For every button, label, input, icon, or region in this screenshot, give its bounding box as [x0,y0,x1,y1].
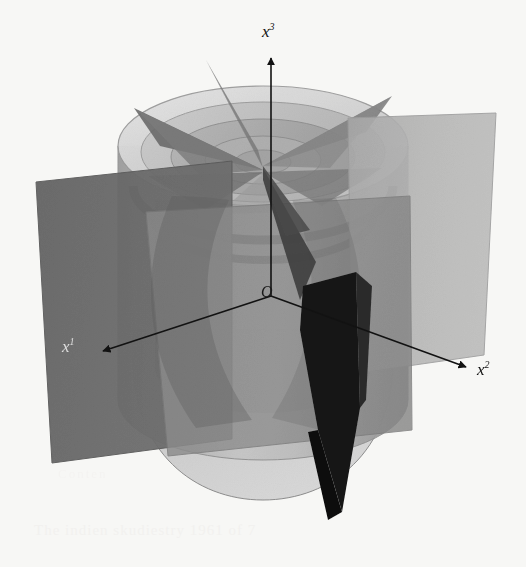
axis-label-x3: x3 [262,22,275,42]
scanner-bleed-upper: Conten [58,466,108,482]
axis-label-x2: x2 [477,360,490,380]
scanner-bleed-lower: The indien skudiestry 1961 of 7 [34,522,256,539]
figure-canvas: x3 x1 x2 O Conten The indien skudiestry … [0,0,526,567]
axis-label-x1: x1 [62,337,75,357]
origin-label: O [261,283,273,301]
